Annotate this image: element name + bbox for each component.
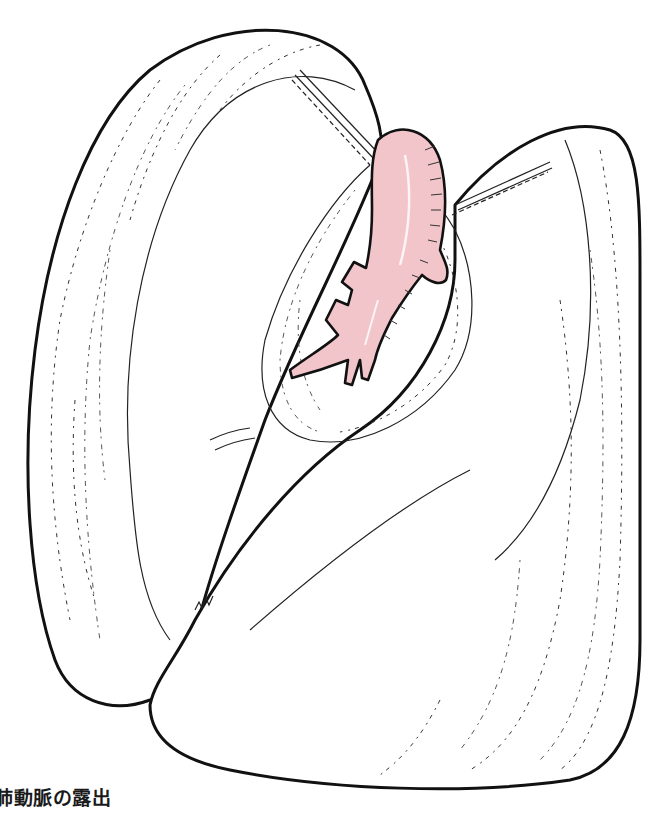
lung-illustration [0, 0, 651, 825]
figure-caption: 肺動脈の露出 [0, 783, 111, 810]
